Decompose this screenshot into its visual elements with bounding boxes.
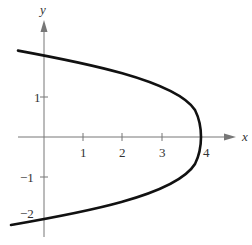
y-axis-arrow-icon — [41, 20, 48, 32]
y-tick-label-1: 1 — [34, 90, 41, 105]
x-tick-label-2: 2 — [119, 145, 126, 160]
x-axis-arrow-icon — [224, 134, 236, 141]
y-tick-label-minus1: −1 — [20, 170, 34, 185]
x-tick-label-1: 1 — [80, 145, 87, 160]
parabola-chart: x y 1 2 3 4 1 −1 −2 — [0, 0, 252, 245]
parabola-curve — [11, 51, 201, 225]
x-tick-label-4: 4 — [203, 145, 210, 160]
x-axis-label: x — [241, 129, 248, 144]
y-axis-label: y — [38, 2, 46, 17]
y-tick-label-minus2: −2 — [20, 206, 34, 221]
x-tick-label-3: 3 — [159, 145, 166, 160]
